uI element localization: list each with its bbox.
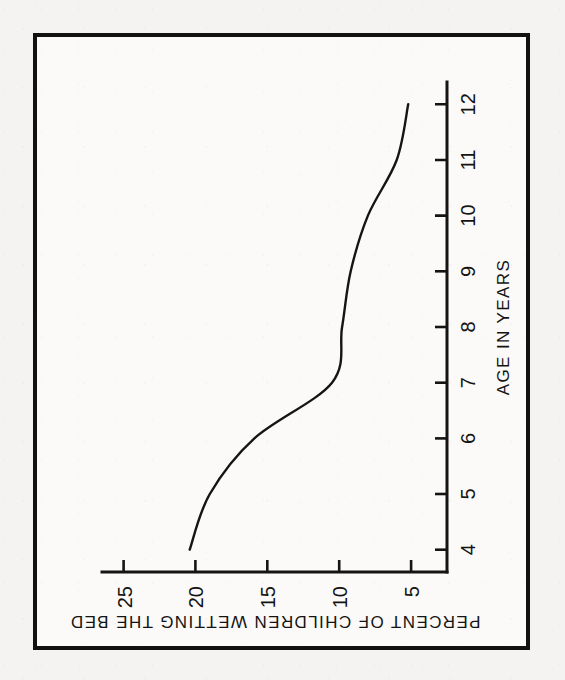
x-tick-label: 4 (457, 544, 479, 555)
rotated-chart-container: 4 5 6 7 8 9 10 11 12 (47, 42, 517, 642)
y-tick-label: 5 (401, 586, 423, 597)
figure-frame: 4 5 6 7 8 9 10 11 12 (33, 33, 530, 650)
x-tick-label: 12 (457, 93, 479, 115)
y-tick-label: 20 (185, 586, 207, 608)
y-tick-label: 10 (329, 586, 351, 608)
x-tick-marks (435, 104, 447, 549)
x-tick-label: 5 (457, 488, 479, 499)
y-tick-labels: 5 10 15 20 25 (113, 586, 423, 608)
x-tick-label: 8 (457, 321, 479, 332)
y-tick-marks (123, 560, 411, 572)
x-tick-label: 11 (457, 149, 479, 170)
x-tick-label: 9 (457, 265, 479, 276)
y-tick-label: 15 (257, 586, 279, 608)
plot-area: 4 5 6 7 8 9 10 11 12 (47, 42, 517, 642)
x-tick-labels: 4 5 6 7 8 9 10 11 12 (457, 93, 479, 555)
scanned-page: 4 5 6 7 8 9 10 11 12 (0, 0, 565, 680)
x-tick-label: 7 (457, 377, 479, 388)
y-axis-title: PERCENT OF CHILDREN WETTING THE BED (69, 612, 480, 631)
x-tick-label: 10 (457, 204, 479, 226)
axes-group (102, 82, 447, 572)
line-chart: 4 5 6 7 8 9 10 11 12 (47, 42, 517, 642)
y-tick-label: 25 (113, 586, 135, 608)
x-tick-label: 6 (457, 432, 479, 443)
x-axis-title: AGE IN YEARS (494, 258, 513, 394)
data-curve (189, 104, 408, 549)
